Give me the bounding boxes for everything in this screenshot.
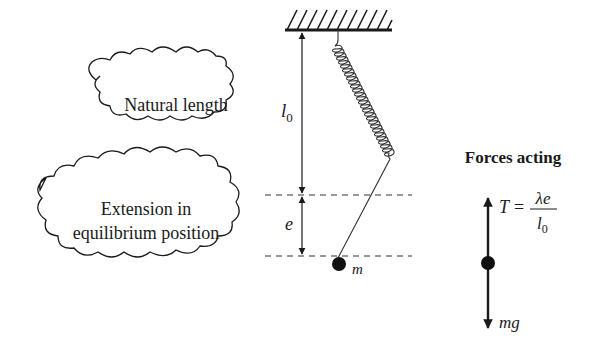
particle [481,256,495,270]
e-label: e [285,214,293,234]
tension-symbol: T [499,197,511,217]
extension-callout: Extension in equilibrium position [38,147,239,257]
natural-length-callout: Natural length [89,47,233,120]
tension-numerator: λe [535,189,551,208]
forces-title: Forces acting [465,148,562,167]
tension-denominator: l0 [537,214,548,236]
ceiling-support [285,10,392,30]
weight-label: mg [499,313,520,332]
spring [333,30,395,258]
mass-label: m [352,261,363,277]
free-body-diagram: Forces acting T = λe l0 mg [465,148,562,332]
mass-bob [332,257,346,271]
natural-length-label: Natural length [124,95,227,115]
extension-label-line1: Extension in [101,199,192,219]
equals-sign: = [514,197,524,217]
extension-label-line2: equilibrium position [73,223,220,243]
l0-label: l0 [281,100,293,125]
spring-diagram: m l0 e Natural length Extension in equil… [0,0,600,345]
